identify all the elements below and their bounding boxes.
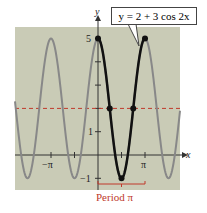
tick-label-5: 5 <box>86 33 91 44</box>
tick-label-neg-pi: −π <box>42 159 53 170</box>
x-axis-label: x <box>186 149 190 160</box>
plot-area <box>0 0 207 213</box>
tick-label-pi: π <box>141 159 146 170</box>
tick-label-1: 1 <box>88 126 93 137</box>
equation-label: y = 2 + 3 cos 2x <box>111 7 197 25</box>
period-label: Period π <box>96 191 133 203</box>
tick-label-neg1: −1 <box>80 173 91 184</box>
y-axis-label: y <box>95 6 99 17</box>
chart: y = 2 + 3 cos 2x y x −π π 5 1 −1 Period … <box>0 0 207 213</box>
